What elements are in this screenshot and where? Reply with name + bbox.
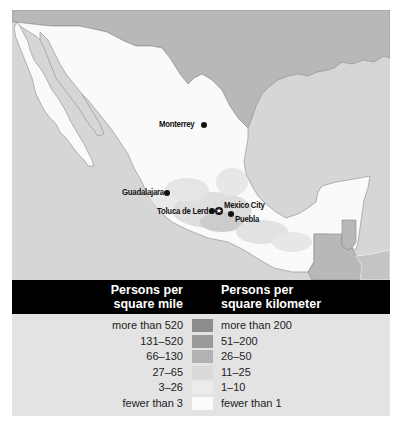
legend-sq-mile-value: 27–65 [152,365,183,380]
legend-sq-km-value: fewer than 1 [221,396,282,411]
header-left-line2: square mile [111,297,183,311]
city-label-toluca: Toluca de Lerdo [157,206,213,216]
legend-swatch [192,350,213,363]
city-label-puebla: Puebla [235,214,259,224]
legend-sq-km-value: 51–200 [221,334,258,349]
header-right-line1: Persons per [221,283,321,297]
legend-header-sq-km: Persons per square kilometer [221,283,321,311]
legend-swatch [192,397,213,410]
legend-header-sq-mile: Persons per square mile [111,283,183,311]
legend-swatch [192,335,213,348]
legend-sq-mile-value: fewer than 3 [122,396,183,411]
belize-land [342,220,356,250]
legend-sq-km-value: 11–25 [221,365,251,380]
legend-body: more than 520 more than 200 131–520 51–2… [12,314,390,416]
legend-swatch [192,366,213,379]
city-label-monterrey: Monterrey [159,119,194,129]
map-area: Monterrey Guadalajara Toluca de Lerdo ★ … [12,10,390,280]
city-label-guadalajara: Guadalajara [122,187,164,197]
legend-sq-mile-value: 3–26 [159,380,183,395]
capital-star-icon: ★ [215,207,223,215]
population-density-map-figure: Monterrey Guadalajara Toluca de Lerdo ★ … [12,10,390,416]
map-geography [12,10,390,280]
legend-sq-mile-value: 131–520 [140,334,183,349]
legend-row: 131–520 51–200 [12,334,390,350]
legend-swatch [192,381,213,394]
legend-row: fewer than 3 fewer than 1 [12,396,390,412]
legend-header: Persons per square mile Persons per squa… [12,280,390,314]
legend-row: 27–65 11–25 [12,365,390,381]
legend-sq-mile-value: more than 520 [112,318,183,333]
city-dot-puebla [228,211,234,217]
header-right-line2: square kilometer [221,297,321,311]
legend-row: more than 520 more than 200 [12,318,390,334]
city-label-mexico-city: Mexico City [224,200,265,210]
city-dot-guadalajara [164,190,170,196]
city-dot-monterrey [201,122,207,128]
legend-sq-km-value: 1–10 [221,380,245,395]
legend-sq-km-value: 26–50 [221,349,252,364]
legend-row: 3–26 1–10 [12,380,390,396]
header-left-line1: Persons per [111,283,183,297]
legend-sq-mile-value: 66–130 [146,349,183,364]
legend-row: 66–130 26–50 [12,349,390,365]
legend-sq-km-value: more than 200 [221,318,292,333]
honduras-land [356,250,390,280]
legend-swatch [192,319,213,332]
